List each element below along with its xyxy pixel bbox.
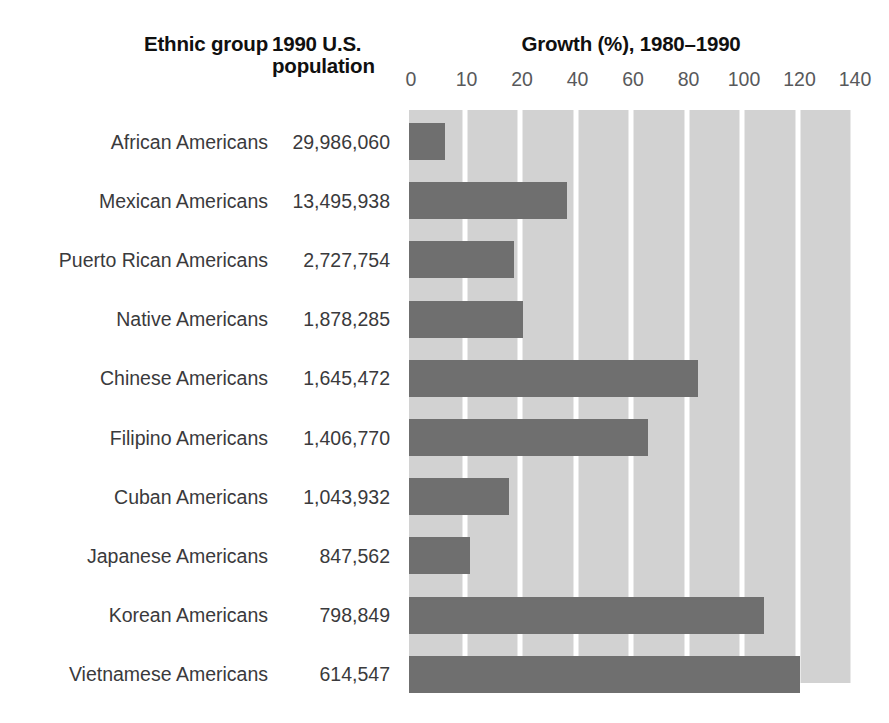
row-value-population: 13,495,938 <box>276 188 390 214</box>
row-label-group: Chinese Americans <box>20 365 268 391</box>
chart-title: Growth (%), 1980–1990 <box>409 33 853 55</box>
bar-series <box>409 110 853 683</box>
bar <box>409 301 523 338</box>
x-axis-tick-40: 40 <box>567 68 589 90</box>
row-label-group: Vietnamese Americans <box>20 661 268 687</box>
row-label-group: Filipino Americans <box>20 425 268 451</box>
row-value-population: 2,727,754 <box>276 247 390 273</box>
x-axis-tick-0: 0 <box>406 68 417 90</box>
row-value-population: 1,645,472 <box>276 365 390 391</box>
bar <box>409 656 800 693</box>
x-axis-tick-10: 10 <box>456 68 478 90</box>
row-label-group: Native Americans <box>20 306 268 332</box>
x-axis-tick-120: 120 <box>783 68 816 90</box>
row-label-group: Cuban Americans <box>20 484 268 510</box>
row-value-population: 29,986,060 <box>276 129 390 155</box>
bar <box>409 478 509 515</box>
plot-area <box>409 110 853 683</box>
row-value-population: 847,562 <box>276 543 390 569</box>
bar <box>409 419 648 456</box>
x-axis-tick-100: 100 <box>728 68 761 90</box>
bar <box>409 241 514 278</box>
row-label-group: Puerto Rican Americans <box>20 247 268 273</box>
bar <box>409 182 567 219</box>
x-axis-tick-80: 80 <box>678 68 700 90</box>
row-label-group: Japanese Americans <box>20 543 268 569</box>
row-value-population: 798,849 <box>276 602 390 628</box>
x-axis-tick-60: 60 <box>622 68 644 90</box>
bar <box>409 597 764 634</box>
row-label-group: Korean Americans <box>20 602 268 628</box>
row-label-group: African Americans <box>20 129 268 155</box>
row-value-population: 1,878,285 <box>276 306 390 332</box>
bar <box>409 360 698 397</box>
row-label-columns: African Americans29,986,060Mexican Ameri… <box>0 0 405 723</box>
row-label-group: Mexican Americans <box>20 188 268 214</box>
growth-chart-figure: Ethnic group 1990 U.S. population Growth… <box>0 0 889 723</box>
row-value-population: 1,406,770 <box>276 425 390 451</box>
row-value-population: 1,043,932 <box>276 484 390 510</box>
row-value-population: 614,547 <box>276 661 390 687</box>
x-axis-tick-20: 20 <box>511 68 533 90</box>
bar <box>409 123 445 160</box>
bar <box>409 537 470 574</box>
x-axis-tick-140: 140 <box>839 68 872 90</box>
